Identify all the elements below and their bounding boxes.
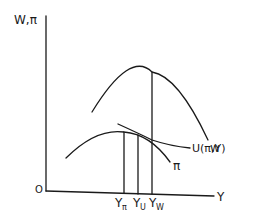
origin-label: O: [35, 184, 43, 195]
x-axis: [46, 191, 214, 196]
y-axis-label: W,π: [14, 13, 37, 27]
svg-text:U: U: [140, 203, 146, 212]
u-curve-label: U(π,Y): [192, 142, 225, 155]
svg-text:W: W: [156, 203, 164, 212]
pi-curve: [66, 132, 170, 162]
tick-y-w: Y W: [148, 196, 164, 212]
diagram-canvas: W,π O Y w π U(π,Y) Y π Y U Y W: [0, 0, 256, 224]
tick-y-u: Y U: [132, 196, 146, 212]
w-curve: [92, 66, 208, 140]
pi-curve-label: π: [173, 159, 180, 173]
svg-text:π: π: [122, 203, 127, 212]
x-axis-label: Y: [216, 190, 225, 204]
tick-y-pi: Y π: [114, 196, 127, 212]
